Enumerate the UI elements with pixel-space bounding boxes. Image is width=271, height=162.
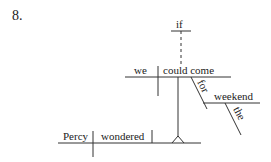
- main-subject: Percy: [63, 130, 89, 142]
- preposition-word: for: [195, 77, 212, 94]
- main-verb: wondered: [101, 130, 145, 142]
- clause-verb: could come: [163, 64, 214, 76]
- sentence-diagram: if we could come for weekend the Percy w…: [0, 0, 271, 162]
- clause-subject: we: [134, 64, 147, 76]
- article-word: the: [231, 104, 248, 122]
- prep-object: weekend: [214, 90, 254, 102]
- conjunction-word: if: [176, 18, 183, 30]
- pedestal: [172, 136, 184, 143]
